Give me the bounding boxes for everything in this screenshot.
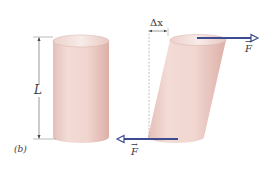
length-label: L: [34, 83, 42, 97]
panel-label: (b): [14, 144, 27, 154]
force-label-top: → F: [245, 43, 252, 54]
sheared-cylinder: [148, 35, 226, 144]
force-label-bottom: → F: [131, 146, 138, 157]
displacement-dimension: [149, 28, 168, 36]
undeformed-cylinder: [53, 35, 109, 143]
displacement-label: Δx: [150, 17, 163, 28]
